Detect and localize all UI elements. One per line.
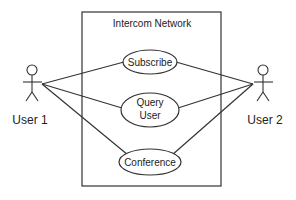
use-case-query-label-1: Query [136,97,163,108]
association-user2-subscribe [176,62,253,84]
system-title: Intercom Network [113,18,192,29]
actor-user2-label: User 2 [247,113,283,127]
association-user2-query [178,84,253,108]
use-case-diagram: Intercom Network Subscribe Query User Co… [0,0,296,200]
use-case-subscribe-label: Subscribe [128,57,173,68]
association-user1-conference [42,84,128,155]
actor-user1-label: User 1 [12,113,48,127]
association-user1-subscribe [42,62,124,84]
actor-user2-icon [254,65,273,101]
association-user2-conference [172,84,253,155]
actor-user1-icon [23,65,42,101]
use-case-conference-label: Conference [124,157,176,168]
use-case-query-label-2: User [139,110,161,121]
